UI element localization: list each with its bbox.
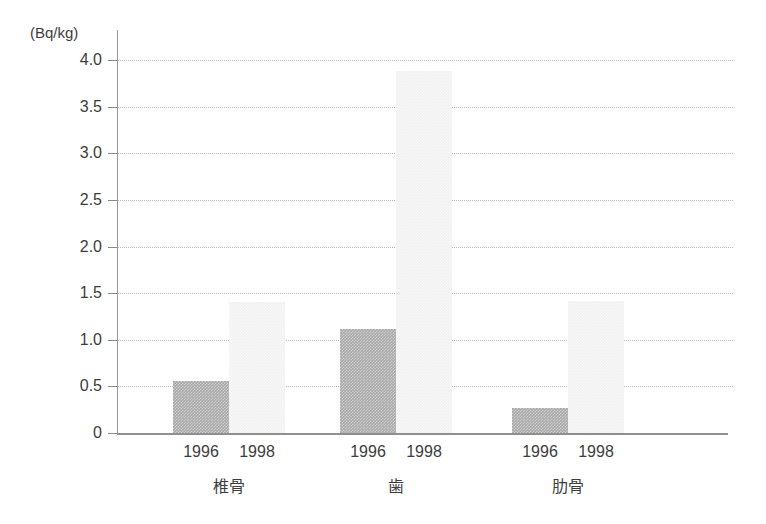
bar-歯-1996 — [340, 329, 396, 433]
y-tick-label: 0.5 — [6, 378, 102, 394]
x-tick-label-year: 1998 — [561, 443, 631, 461]
y-tick-mark — [108, 60, 117, 61]
x-tick-label-year: 1998 — [222, 443, 292, 461]
y-tick-label: 3.5 — [6, 99, 102, 115]
y-tick-label: 1.0 — [6, 332, 102, 348]
y-tick-label: 2.0 — [6, 239, 102, 255]
x-group-label: 歯 — [316, 473, 476, 497]
y-tick-mark — [108, 386, 117, 387]
y-tick-mark — [108, 433, 117, 434]
y-tick-label: 4.0 — [6, 52, 102, 68]
y-tick-label: 0 — [6, 425, 102, 441]
y-tick-label: 2.5 — [6, 192, 102, 208]
y-tick-mark — [108, 340, 117, 341]
y-tick-mark — [108, 200, 117, 201]
y-axis-unit-label: (Bq/kg) — [30, 24, 78, 41]
y-tick-mark — [108, 107, 117, 108]
y-tick-mark — [108, 293, 117, 294]
plot-area — [117, 30, 733, 433]
y-tick-mark — [108, 153, 117, 154]
bar-肋骨-1998 — [568, 301, 624, 433]
x-group-label: 椎骨 — [149, 473, 309, 497]
x-group-label: 肋骨 — [488, 473, 648, 497]
bar-chart: (Bq/kg) 00.51.01.52.02.53.03.54.0 199619… — [0, 0, 766, 524]
x-axis-line — [117, 433, 728, 435]
y-tick-label: 3.0 — [6, 145, 102, 161]
bar-椎骨-1996 — [173, 381, 229, 433]
x-tick-label-year: 1998 — [389, 443, 459, 461]
y-tick-mark — [108, 247, 117, 248]
y-tick-label: 1.5 — [6, 285, 102, 301]
bar-歯-1998 — [396, 71, 452, 433]
bar-椎骨-1998 — [229, 302, 285, 433]
bar-肋骨-1996 — [512, 408, 568, 433]
